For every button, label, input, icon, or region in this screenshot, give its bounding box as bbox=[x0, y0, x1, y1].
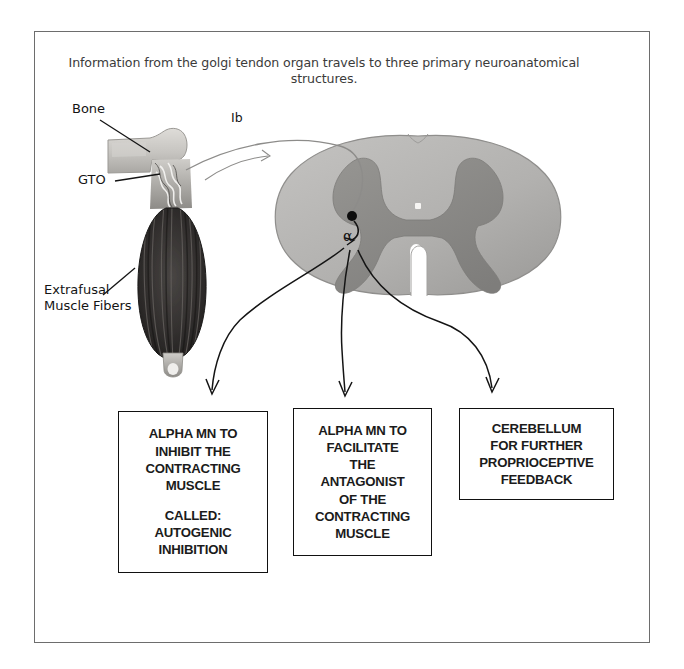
label-ib-afferent: Ib bbox=[231, 110, 243, 125]
extrafusal-muscle-fibers bbox=[138, 204, 206, 377]
output-box-inhibit-text-primary: ALPHA MN TO INHIBIT THE CONTRACTING MUSC… bbox=[145, 425, 240, 494]
label-gto: GTO bbox=[78, 172, 106, 188]
golgi-tendon-organ bbox=[150, 159, 192, 209]
label-extrafusal-muscle-fibers: Extrafusal Muscle Fibers bbox=[44, 282, 132, 314]
output-box-facilitate-text: ALPHA MN TO FACILITATE THE ANTAGONIST OF… bbox=[315, 422, 410, 542]
synaptic-bouton bbox=[347, 211, 357, 221]
output-box-facilitate: ALPHA MN TO FACILITATE THE ANTAGONIST OF… bbox=[293, 408, 432, 556]
label-bone: Bone bbox=[72, 101, 105, 117]
spinal-cord-cross-section bbox=[275, 134, 561, 296]
central-canal bbox=[415, 203, 421, 209]
output-box-inhibit-text-secondary: CALLED: AUTOGENIC INHIBITION bbox=[154, 507, 231, 558]
label-alpha-motor-neuron: α bbox=[343, 228, 352, 245]
output-box-inhibit: ALPHA MN TO INHIBIT THE CONTRACTING MUSC… bbox=[118, 411, 268, 573]
page-canvas: Information from the golgi tendon organ … bbox=[0, 0, 684, 669]
output-box-cerebellum-text: CEREBELLUM FOR FURTHER PROPRIOCEPTIVE FE… bbox=[479, 420, 593, 489]
output-box-cerebellum: CEREBELLUM FOR FURTHER PROPRIOCEPTIVE FE… bbox=[459, 408, 614, 500]
